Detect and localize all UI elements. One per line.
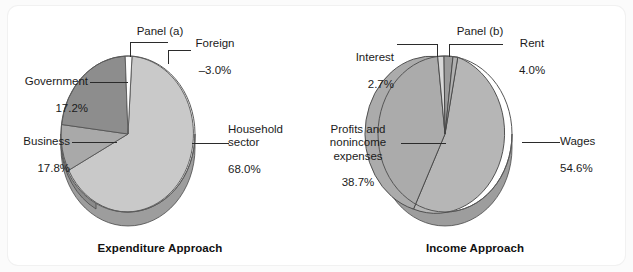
caption-income: Income Approach: [317, 242, 633, 254]
label-foreign-value: –3.0%: [199, 64, 232, 76]
leader-government: [90, 82, 128, 83]
label-rent-value: 4.0%: [519, 64, 545, 76]
label-rent-name: Rent: [520, 37, 544, 49]
label-government-name: Government: [25, 75, 88, 87]
label-business: Business 17.8%: [2, 122, 70, 175]
label-household-name: Household sector: [228, 123, 283, 148]
label-business-value: 17.8%: [37, 162, 70, 174]
leader-wages: [522, 142, 560, 143]
leader-panel-a-h: [130, 42, 168, 43]
label-profits: Profits and nonincome expenses 38.7%: [317, 110, 399, 189]
leader-interest-v: [437, 44, 438, 57]
panel-a: Panel (a) Foreign –3.: [2, 0, 318, 272]
leader-rent-h: [449, 44, 503, 45]
leader-foreign-v: [168, 50, 169, 64]
label-interest-name: Interest: [356, 51, 394, 63]
label-government-value: 17.2%: [55, 102, 88, 114]
label-profits-value: 38.7%: [342, 176, 375, 188]
caption-expenditure: Expenditure Approach: [2, 242, 318, 254]
label-business-name: Business: [23, 135, 70, 147]
label-profits-name: Profits and nonincome expenses: [330, 123, 386, 161]
label-interest: Interest 2.7%: [317, 38, 394, 91]
figure-container: Panel (a) Foreign –3.: [0, 0, 633, 272]
label-wages-name: Wages: [560, 135, 595, 147]
label-wages-value: 54.6%: [560, 162, 593, 174]
leader-panel-a-v: [130, 42, 131, 57]
label-rent: Rent 4.0%: [502, 24, 562, 77]
label-wages: Wages 54.6%: [560, 122, 626, 175]
label-household: Household sector 68.0%: [228, 110, 314, 176]
label-foreign-name: Foreign: [196, 37, 235, 49]
leader-foreign-h: [168, 50, 191, 51]
leader-rent-v: [449, 44, 450, 57]
leader-household: [192, 143, 229, 144]
panel-b: Panel (b) Interest 2.7%: [317, 0, 633, 272]
label-government: Government 17.2%: [2, 62, 88, 115]
leader-interest-h: [397, 44, 438, 45]
label-interest-value: 2.7%: [368, 78, 394, 90]
leader-profits: [401, 143, 446, 144]
leader-business: [72, 142, 117, 143]
label-household-value: 68.0%: [228, 163, 261, 175]
